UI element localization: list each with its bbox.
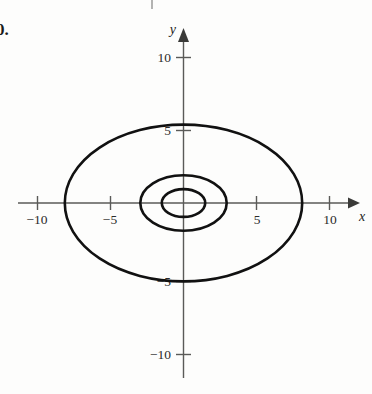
x-tick-label-minus-5: −5 bbox=[103, 212, 118, 227]
x-tick-label-10: 10 bbox=[323, 212, 337, 227]
x-axis-arrow-icon bbox=[348, 198, 360, 209]
y-axis-arrow-icon bbox=[178, 28, 189, 42]
coordinate-plot: −10 −5 5 10 10 5 −5 −10 y x bbox=[0, 0, 372, 394]
y-axis-name-label: y bbox=[168, 22, 177, 37]
x-axis-name-label: x bbox=[358, 209, 366, 224]
figure-page: 0. −10 −5 5 10 10 5 −5 −10 y x bbox=[0, 0, 372, 394]
x-tick-label-minus-10: −10 bbox=[26, 212, 47, 227]
y-tick-label-10: 10 bbox=[158, 50, 172, 65]
x-tick-label-5: 5 bbox=[254, 212, 261, 227]
y-tick-label-minus-10: −10 bbox=[150, 347, 171, 362]
